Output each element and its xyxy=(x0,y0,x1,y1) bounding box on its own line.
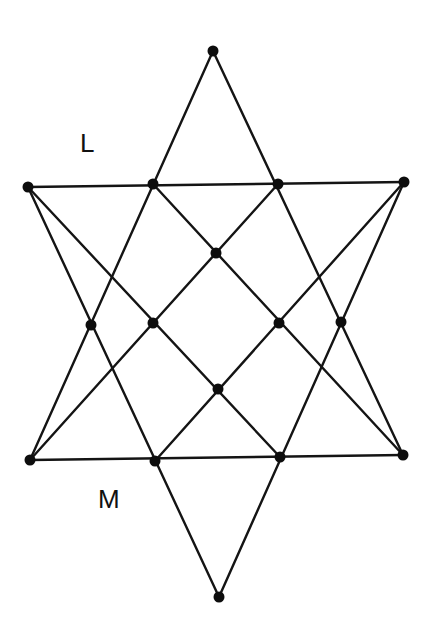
edge-u1-u4 xyxy=(28,182,404,187)
node-b2 xyxy=(150,456,161,467)
node-u4 xyxy=(399,177,410,188)
node-u1 xyxy=(23,182,34,193)
node-cl xyxy=(213,384,224,395)
node-m4 xyxy=(336,317,347,328)
label-L: L xyxy=(80,128,94,158)
node-u3 xyxy=(273,179,284,190)
node-top xyxy=(208,46,219,57)
edge-top-b1 xyxy=(30,51,213,460)
node-b1 xyxy=(25,455,36,466)
node-bottom xyxy=(214,592,225,603)
edge-b1-b4 xyxy=(30,455,403,460)
node-b3 xyxy=(275,452,286,463)
node-cu xyxy=(211,248,222,259)
node-m1 xyxy=(86,320,97,331)
node-u2 xyxy=(148,179,159,190)
node-m2 xyxy=(148,318,159,329)
node-m3 xyxy=(274,318,285,329)
edge-bottom-u4 xyxy=(219,182,404,597)
edge-top-b4 xyxy=(213,51,403,455)
node-b4 xyxy=(398,450,409,461)
label-M: M xyxy=(98,484,120,514)
star-lattice-diagram: LM xyxy=(0,0,427,632)
